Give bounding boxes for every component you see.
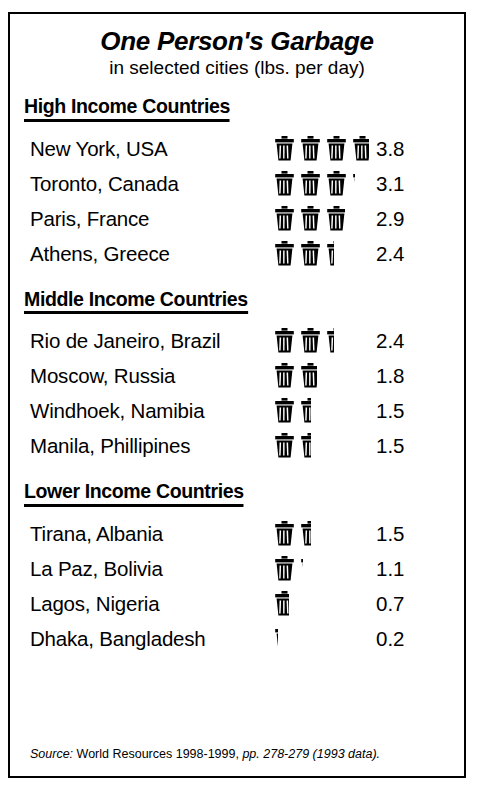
trash-can-icon (274, 398, 295, 423)
chart-row: Windhoek, Namibia1.5 (24, 393, 450, 428)
trash-can-icon (300, 136, 321, 161)
value-label: 1.5 (376, 516, 436, 551)
chart-row: La Paz, Bolivia1.1 (24, 551, 450, 586)
page-title: One Person's Garbage (24, 28, 450, 56)
pictogram-icons (274, 166, 360, 201)
value-label: 0.2 (376, 621, 436, 656)
city-label: Toronto, Canada (30, 166, 179, 201)
section-rows: New York, USA3.8Toronto, Canada3.1Paris,… (24, 131, 450, 271)
chart-sections: High Income CountriesNew York, USA3.8Tor… (24, 94, 450, 656)
section-rows: Tirana, Albania1.5La Paz, Bolivia1.1Lago… (24, 516, 450, 656)
city-label: Tirana, Albania (30, 516, 163, 551)
trash-can-icon (274, 521, 295, 546)
source-main: World Resources 1998-1999, (73, 747, 239, 761)
trash-can-icon-partial (352, 136, 369, 161)
trash-can-icon-partial (274, 626, 278, 651)
trash-can-icon (274, 136, 295, 161)
value-label: 1.1 (376, 551, 436, 586)
pictogram-icons (274, 586, 294, 621)
income-section: High Income CountriesNew York, USA3.8Tor… (24, 94, 450, 271)
pictogram-icons (274, 236, 339, 271)
chart-row: Paris, France2.9 (24, 201, 450, 236)
city-label: Lagos, Nigeria (30, 586, 159, 621)
trash-can-icon (274, 206, 295, 231)
value-label: 1.8 (376, 358, 436, 393)
city-label: La Paz, Bolivia (30, 551, 163, 586)
chart-row: Lagos, Nigeria0.7 (24, 586, 450, 621)
pictogram-icons (274, 621, 283, 656)
city-label: Paris, France (30, 201, 149, 236)
trash-can-icon (326, 136, 347, 161)
trash-can-icon (300, 171, 321, 196)
value-label: 0.7 (376, 586, 436, 621)
section-heading: High Income Countries (24, 94, 230, 122)
trash-can-icon (300, 206, 321, 231)
pictogram-icons (274, 201, 350, 236)
trash-can-icon-partial (300, 521, 311, 546)
trash-can-icon (274, 556, 295, 581)
section-heading: Lower Income Countries (24, 479, 244, 507)
source-note: Source: World Resources 1998-1999, pp. 2… (30, 747, 380, 762)
trash-can-icon-partial (274, 591, 289, 616)
trash-can-icon (274, 363, 295, 388)
trash-can-icon-partial (300, 398, 311, 423)
trash-can-icon-partial (326, 328, 334, 353)
pictogram-icons (274, 323, 339, 358)
income-section: Lower Income CountriesTirana, Albania1.5… (24, 479, 450, 656)
chart-row: Manila, Phillipines1.5 (24, 428, 450, 463)
chart-subtitle: in selected cities (lbs. per day) (24, 57, 450, 79)
trash-can-icon-partial (326, 241, 334, 266)
trash-can-icon (300, 328, 321, 353)
city-label: Windhoek, Namibia (30, 393, 204, 428)
section-rows: Rio de Janeiro, Brazil2.4Moscow, Russia1… (24, 323, 450, 463)
trash-can-icon-partial (300, 556, 303, 581)
city-label: Dhaka, Bangladesh (30, 621, 206, 656)
trash-can-icon-partial (300, 433, 311, 458)
trash-can-icon-partial (300, 363, 317, 388)
value-label: 2.4 (376, 323, 436, 358)
pictogram-icons (274, 358, 322, 393)
pictogram-icons (274, 131, 374, 166)
trash-can-icon (274, 433, 295, 458)
source-pages: pp. 278-279 (1993 data). (239, 747, 380, 761)
chart-title-block: One Person's Garbage in selected cities … (24, 14, 450, 78)
chart-row: Dhaka, Bangladesh0.2 (24, 621, 450, 656)
chart-row: New York, USA3.8 (24, 131, 450, 166)
chart-row: Athens, Greece2.4 (24, 236, 450, 271)
chart-row: Toronto, Canada3.1 (24, 166, 450, 201)
city-label: New York, USA (30, 131, 168, 166)
section-heading: Middle Income Countries (24, 287, 248, 315)
chart-row: Rio de Janeiro, Brazil2.4 (24, 323, 450, 358)
city-label: Rio de Janeiro, Brazil (30, 323, 220, 358)
value-label: 2.4 (376, 236, 436, 271)
trash-can-icon (274, 328, 295, 353)
pictogram-icons (274, 393, 316, 428)
source-prefix: Source: (30, 747, 73, 761)
trash-can-icon (300, 241, 321, 266)
value-label: 3.8 (376, 131, 436, 166)
value-label: 1.5 (376, 428, 436, 463)
trash-can-icon (326, 171, 347, 196)
trash-can-icon (274, 241, 295, 266)
city-label: Manila, Phillipines (30, 428, 190, 463)
chart-frame: One Person's Garbage in selected cities … (8, 12, 466, 778)
chart-row: Moscow, Russia1.8 (24, 358, 450, 393)
trash-can-icon (274, 171, 295, 196)
city-label: Athens, Greece (30, 236, 170, 271)
value-label: 2.9 (376, 201, 436, 236)
trash-can-icon-partial (352, 171, 355, 196)
pictogram-icons (274, 516, 316, 551)
pictogram-icons (274, 551, 308, 586)
trash-can-icon-partial (326, 206, 345, 231)
value-label: 3.1 (376, 166, 436, 201)
value-label: 1.5 (376, 393, 436, 428)
chart-row: Tirana, Albania1.5 (24, 516, 450, 551)
pictogram-icons (274, 428, 316, 463)
income-section: Middle Income CountriesRio de Janeiro, B… (24, 287, 450, 464)
city-label: Moscow, Russia (30, 358, 175, 393)
